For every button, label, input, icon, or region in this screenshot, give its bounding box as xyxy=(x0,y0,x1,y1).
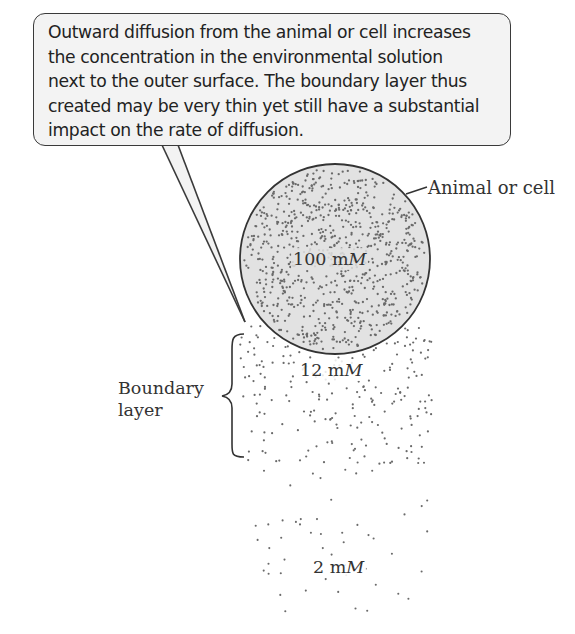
callout-line: Outward diffusion from the animal or cel… xyxy=(48,20,500,45)
boundary-concentration-label: 12 mM xyxy=(298,359,364,381)
concentration-value: 2 m xyxy=(313,557,346,577)
concentration-unit: M xyxy=(344,360,362,380)
concentration-value: 12 m xyxy=(300,360,344,380)
boundary-layer-label-line2: layer xyxy=(118,399,163,421)
cell-label-leader xyxy=(406,187,427,194)
boundary-layer-label-line1: Boundary xyxy=(118,377,204,399)
callout-line: next to the outer surface. The boundary … xyxy=(48,69,500,94)
concentration-unit: M xyxy=(349,249,367,269)
callout-text: Outward diffusion from the animal or cel… xyxy=(48,20,500,143)
interior-concentration-label: 100 mM xyxy=(291,248,368,270)
callout-line: created may be very thin yet still have … xyxy=(48,94,500,119)
callout-tail xyxy=(162,144,246,322)
cell-label: Animal or cell xyxy=(428,177,555,199)
callout-line: impact on the rate of diffusion. xyxy=(48,118,500,143)
callout-line: the concentration in the environmental s… xyxy=(48,45,500,70)
concentration-unit: M xyxy=(346,557,364,577)
bulk-concentration-label: 2 mM xyxy=(311,556,366,578)
concentration-value: 100 m xyxy=(293,249,349,269)
diffusion-boundary-layer-diagram: Outward diffusion from the animal or cel… xyxy=(0,0,575,634)
boundary-layer-brace xyxy=(222,334,244,457)
callout-bubble: Outward diffusion from the animal or cel… xyxy=(33,13,511,146)
